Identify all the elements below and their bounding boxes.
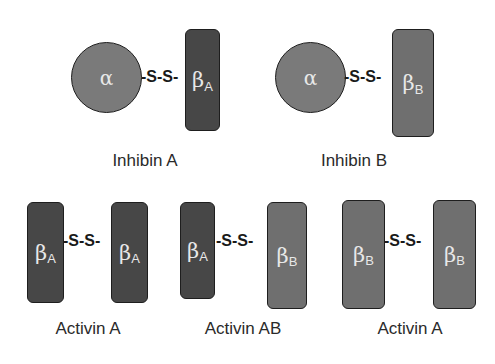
beta-b-subunit-rect: βB: [392, 29, 434, 137]
molecule-label: Activin A: [55, 320, 120, 337]
molecule-label: Activin AB: [205, 320, 282, 337]
disulfide-bond: -S-S-: [216, 233, 253, 249]
beta-b-subunit-rect: βB: [433, 200, 476, 309]
disulfide-bond: -S-S-: [344, 69, 381, 85]
disulfide-bond: -S-S-: [141, 69, 178, 85]
beta-subscript: B: [415, 82, 424, 97]
beta-a-subunit-rect: βA: [185, 29, 220, 131]
beta-b-subunit-rect: βB: [342, 200, 385, 309]
beta-symbol: β: [277, 244, 289, 268]
disulfide-bond: -S-S-: [384, 233, 421, 249]
beta-subscript: A: [204, 79, 213, 94]
alpha-subunit-circle: α: [275, 42, 346, 113]
molecule-label: Inhibin A: [112, 152, 177, 169]
beta-subscript: A: [47, 251, 56, 266]
molecule-label: Inhibin B: [321, 152, 387, 169]
beta-subscript: A: [199, 249, 208, 264]
beta-a-subunit-rect: βA: [180, 202, 215, 299]
beta-a-subunit-rect: βA: [111, 202, 148, 303]
beta-symbol: β: [353, 243, 365, 267]
beta-symbol: β: [403, 71, 415, 95]
beta-symbol: β: [35, 241, 47, 265]
beta-subscript: B: [365, 253, 374, 268]
beta-subscript: A: [131, 251, 140, 266]
alpha-subunit-circle: α: [71, 42, 142, 113]
alpha-symbol: α: [100, 68, 114, 88]
beta-subscript: B: [289, 254, 298, 269]
molecule-label: Activin A: [377, 320, 442, 337]
beta-a-subunit-rect: βA: [27, 202, 64, 303]
beta-b-subunit-rect: βB: [267, 202, 307, 309]
beta-symbol: β: [444, 243, 456, 267]
beta-subscript: B: [456, 253, 465, 268]
disulfide-bond: -S-S-: [63, 233, 100, 249]
beta-symbol: β: [192, 68, 204, 92]
beta-symbol: β: [187, 239, 199, 263]
beta-symbol: β: [119, 241, 131, 265]
alpha-symbol: α: [304, 68, 318, 88]
